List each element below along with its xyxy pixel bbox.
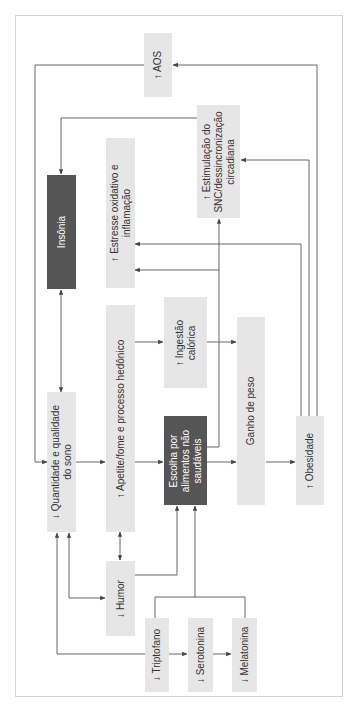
node-quantidade-sono-label: ↓ Quantidade e qualidade do sono (50, 405, 74, 519)
node-ganho-peso-label: Ganho de peso (245, 377, 257, 445)
node-melatonina: ↓ Melatonina (232, 618, 257, 692)
node-serotonina: ↓ Serotonina (188, 618, 213, 692)
node-triptofano-label: ↓ Triptofano (151, 629, 163, 681)
node-humor-label: ↓ Humor (115, 580, 127, 618)
node-aos: ↑ AOS (144, 33, 172, 97)
node-humor: ↓ Humor (106, 561, 135, 636)
node-estresse-oxidativo: ↑ Estresse oxidativo e inflamação (106, 138, 135, 288)
node-aos-label: ↑ AOS (152, 51, 164, 79)
node-estresse-label: ↑ Estresse oxidativo e inflamação (109, 164, 133, 261)
node-apetite: ↑ Apetite/fome e processo hedônico (106, 305, 135, 532)
node-estimulacao-label: ↑ Estimulação do SNC/dessincronização ci… (201, 111, 237, 212)
node-obesidade: ↑ Obesidade (296, 416, 324, 505)
node-triptofano: ↓ Triptofano (145, 618, 169, 692)
node-ganho-peso: Ganho de peso (237, 317, 265, 505)
node-escolha-label: Escolha por alimentos não saudáveis (168, 429, 204, 491)
node-melatonina-label: ↓ Melatonina (239, 627, 251, 684)
node-obesidade-label: ↑ Obesidade (304, 432, 316, 488)
node-insonia: Insônia (47, 175, 76, 289)
node-apetite-label: ↑ Apetite/fome e processo hedônico (115, 339, 127, 497)
node-escolha-alimentos: Escolha por alimentos não saudáveis (164, 416, 207, 505)
node-ingestao-calorica: ↑ Ingestão calórica (164, 297, 207, 388)
node-estimulacao-snc: ↑ Estimulação do SNC/dessincronização ci… (197, 105, 240, 218)
node-quantidade-sono: ↓ Quantidade e qualidade do sono (47, 392, 76, 532)
node-serotonina-label: ↓ Serotonina (195, 627, 207, 683)
node-ingestao-label: ↑ Ingestão calórica (174, 319, 198, 365)
node-insonia-label: Insônia (56, 216, 68, 248)
